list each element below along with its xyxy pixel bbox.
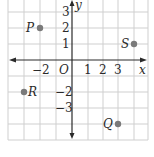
x-axis xyxy=(9,58,147,63)
x-axis-right-arrow-icon xyxy=(140,58,147,63)
x-axis-label: x xyxy=(139,63,146,77)
y-axis-up-arrow-icon xyxy=(70,0,75,6)
x-tick-label: 1 xyxy=(84,63,92,77)
point-r-label: R xyxy=(27,85,37,99)
y-tick-label: −3 xyxy=(55,101,73,115)
point-s-label: S xyxy=(121,37,129,51)
y-tick-label: 3 xyxy=(62,5,70,19)
point-p-label: P xyxy=(25,21,35,35)
point-q-dot xyxy=(115,121,121,127)
point-s: S xyxy=(121,37,137,51)
point-s-dot xyxy=(131,41,137,47)
coordinate-plane: y x O −2 1 2 3 3 2 1 −2 −3 P S R Q xyxy=(0,0,154,157)
y-tick-label: −2 xyxy=(55,85,73,99)
point-r-dot xyxy=(21,89,27,95)
x-tick-label: 2 xyxy=(99,63,107,77)
y-tick-label: 2 xyxy=(62,21,70,35)
x-axis-left-arrow-icon xyxy=(9,58,16,63)
point-q-label: Q xyxy=(103,117,113,131)
y-axis-label: y xyxy=(74,0,82,12)
y-tick-label: 1 xyxy=(62,37,70,51)
x-tick-label: −2 xyxy=(32,63,50,77)
point-p-dot xyxy=(37,25,43,31)
y-axis-down-arrow-icon xyxy=(70,133,75,139)
x-tick-label: 3 xyxy=(114,63,122,77)
y-axis xyxy=(70,0,75,139)
point-r: R xyxy=(21,85,37,99)
origin-label: O xyxy=(59,63,69,77)
